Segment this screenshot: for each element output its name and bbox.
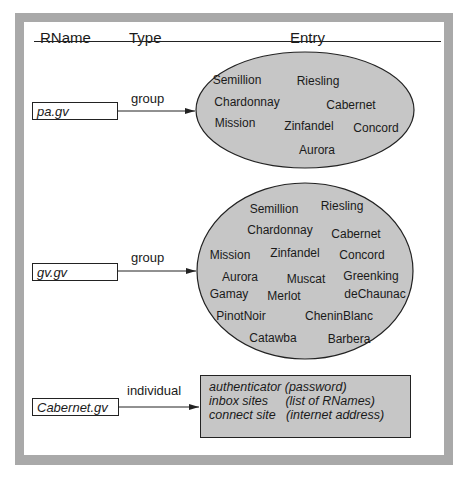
member-word: Aurora (222, 270, 258, 284)
member-word: deChaunac (344, 287, 405, 301)
member-word: Gamay (210, 287, 249, 301)
member-word: Semillion (213, 73, 262, 87)
type-label-cabernet: individual (127, 383, 181, 398)
field-connect-site: connect site (internet address) (209, 408, 410, 422)
member-word: Zinfandel (284, 119, 333, 133)
member-word: Mission (210, 248, 251, 262)
member-word: Riesling (321, 199, 364, 213)
field-authenticator: authenticator (password) (209, 380, 410, 394)
member-word: Merlot (267, 289, 300, 303)
member-word: Chardonnay (247, 223, 312, 237)
member-word: PinotNoir (216, 309, 265, 323)
member-word: Concord (339, 248, 384, 262)
member-word: Barbera (328, 332, 371, 346)
rname-box-gv: gv.gv (32, 263, 118, 281)
member-word: CheninBlanc (305, 309, 373, 323)
member-word: Cabernet (331, 227, 380, 241)
rname-box-pa: pa.gv (32, 102, 118, 120)
member-word: Cabernet (326, 98, 375, 112)
rname-box-cabernet: Cabernet.gv (32, 398, 119, 416)
member-word: Zinfandel (270, 246, 319, 260)
member-word: Muscat (287, 272, 326, 286)
member-word: Mission (215, 116, 256, 130)
member-word: Semillion (250, 202, 299, 216)
member-word: Riesling (297, 74, 340, 88)
type-label-gv: group (131, 250, 164, 265)
member-word: Aurora (299, 143, 335, 157)
type-label-pa: group (131, 91, 164, 106)
member-word: Chardonnay (214, 95, 279, 109)
member-word: Greenking (343, 269, 398, 283)
member-word: Concord (353, 121, 398, 135)
member-word: Catawba (249, 331, 296, 345)
field-inbox-sites: inbox sites (list of RNames) (209, 394, 410, 408)
individual-entry-box: authenticator (password) inbox sites (li… (200, 375, 411, 438)
